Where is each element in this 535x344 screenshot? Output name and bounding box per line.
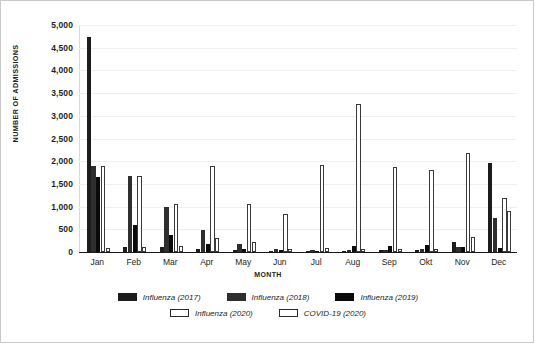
- bar: [87, 37, 91, 252]
- x-axis-title: MONTH: [1, 271, 535, 278]
- bar: [252, 242, 256, 252]
- bar: [101, 166, 105, 252]
- bar-group: [269, 25, 292, 252]
- legend-swatch-icon: [335, 293, 354, 301]
- legend-label: Influenza (2019): [360, 293, 418, 302]
- legend-label: Influenza (2017): [143, 293, 201, 302]
- legend-swatch-icon: [227, 293, 246, 301]
- bar-group: [415, 25, 438, 252]
- bar: [466, 153, 470, 252]
- legend-item[interactable]: Influenza (2019): [335, 293, 418, 302]
- bar: [493, 218, 497, 252]
- bar: [174, 204, 178, 252]
- bar: [507, 211, 511, 252]
- legend-item[interactable]: Influenza (2017): [118, 293, 201, 302]
- bar: [502, 198, 506, 252]
- x-axis-tick-label-mar: Mar: [163, 257, 178, 267]
- bar: [137, 176, 141, 252]
- bar: [320, 165, 324, 252]
- bar: [91, 166, 95, 252]
- x-axis-tick-label-may: May: [235, 257, 251, 267]
- bar-group: [196, 25, 219, 252]
- bar: [215, 238, 219, 252]
- bar: [169, 235, 173, 252]
- chart-legend: Influenza (2017)Influenza (2018)Influenz…: [1, 289, 535, 321]
- legend-row-1: Influenza (2017)Influenza (2018)Influenz…: [1, 289, 535, 305]
- bar: [133, 225, 137, 252]
- bar: [488, 163, 492, 252]
- bar: [452, 242, 456, 252]
- bar-group: [233, 25, 256, 252]
- x-axis-tick-label-dec: Dec: [491, 257, 506, 267]
- bar-group: [452, 25, 475, 252]
- x-axis-tick-label-jul: Jul: [311, 257, 322, 267]
- bar: [237, 244, 241, 252]
- x-axis-tick-label-apr: Apr: [200, 257, 213, 267]
- bar: [128, 176, 132, 252]
- legend-label: COVID-19 (2020): [304, 309, 366, 318]
- legend-swatch-icon: [118, 293, 137, 301]
- bar: [393, 167, 397, 252]
- chart-figure: 5,0004,5004,0003,5003,0002,5002,0001,500…: [0, 0, 534, 343]
- bar: [356, 104, 360, 252]
- bar: [96, 177, 100, 252]
- legend-item[interactable]: Influenza (2020): [170, 309, 253, 318]
- legend-item[interactable]: COVID-19 (2020): [279, 309, 366, 318]
- legend-label: Influenza (2018): [252, 293, 310, 302]
- bar-group: [342, 25, 365, 252]
- bar: [283, 214, 287, 252]
- x-axis-tick-label-nov: Nov: [455, 257, 470, 267]
- bar: [201, 230, 205, 252]
- x-axis-tick-label-jun: Jun: [273, 257, 287, 267]
- bar-group: [160, 25, 183, 252]
- x-axis-tick-label-sep: Sep: [382, 257, 397, 267]
- x-axis-tick-label-okt: Okt: [419, 257, 432, 267]
- legend-swatch-icon: [170, 309, 189, 317]
- y-axis-tick-label: 0: [3, 247, 73, 257]
- bar: [429, 170, 433, 252]
- bar: [164, 207, 168, 252]
- bar-group: [488, 25, 511, 252]
- bar: [247, 204, 251, 252]
- bar-group: [379, 25, 402, 252]
- bar-group: [123, 25, 146, 252]
- legend-row-2: Influenza (2020)COVID-19 (2020): [1, 305, 535, 321]
- x-axis-line: [79, 252, 517, 253]
- x-axis-tick-label-aug: Aug: [345, 257, 360, 267]
- y-axis-title: NUMBER OF ADMISSIONS: [11, 0, 20, 194]
- bar-group: [306, 25, 329, 252]
- legend-swatch-icon: [279, 309, 298, 317]
- x-axis-tick-label-jan: Jan: [90, 257, 104, 267]
- legend-label: Influenza (2020): [195, 309, 253, 318]
- bar: [210, 166, 214, 252]
- bar: [206, 244, 210, 252]
- plot-area: [79, 25, 517, 252]
- bar: [471, 237, 475, 252]
- y-axis-tick-label: 1,000: [3, 202, 73, 212]
- bar-group: [87, 25, 110, 252]
- legend-item[interactable]: Influenza (2018): [227, 293, 310, 302]
- y-axis-tick-label: 500: [3, 224, 73, 234]
- bar: [425, 245, 429, 252]
- x-axis-tick-label-feb: Feb: [126, 257, 141, 267]
